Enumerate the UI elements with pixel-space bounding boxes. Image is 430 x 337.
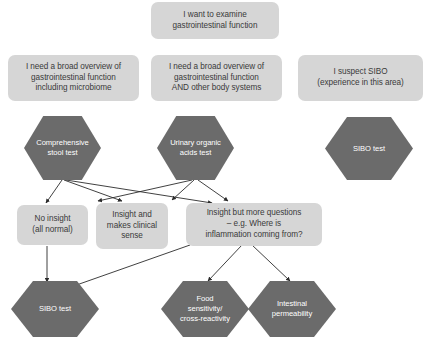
node-outcome-more-questions: Insight but more questions – e.g. Where …: [186, 203, 322, 246]
node-outcome-more-questions-label: Insight but more questions – e.g. Where …: [205, 208, 302, 240]
node-followup-sibo-test: SIBO test: [11, 281, 99, 337]
node-branch-body-systems: I need a broad overview of gastrointesti…: [151, 55, 282, 101]
edge-stool-to-more-questions: [66, 180, 212, 203]
node-test-urinary-organic-acids: Urinary organic acids test: [157, 116, 234, 180]
node-followup-food-sensitivity: Food sensitivity/ cross-reactivity: [161, 281, 249, 337]
flowchart-canvas: I want to examine gastrointestinal funct…: [0, 0, 430, 337]
edge-more-questions-to-intestinal-permeability: [252, 245, 290, 281]
node-outcome-clinical-sense: Insight and makes clinical sense: [96, 203, 168, 249]
node-branch-microbiome-label: I need a broad overview of gastrointesti…: [26, 62, 121, 94]
node-outcome-no-insight-label: No insight (all normal): [32, 214, 72, 236]
node-root-intent-label: I want to examine gastrointestinal funct…: [173, 10, 258, 32]
node-followup-intestinal-permeability: Intestinal permeability: [248, 281, 336, 337]
node-followup-intestinal-permeability-label: Intestinal permeability: [272, 299, 312, 319]
edge-more-questions-to-sibo: [68, 245, 190, 288]
edge-urinary-to-no-insight: [98, 180, 192, 201]
node-outcome-clinical-sense-label: Insight and makes clinical sense: [107, 210, 157, 242]
edge-stool-to-clinical-sense: [64, 180, 122, 201]
node-test-sibo: SIBO test: [325, 117, 413, 180]
node-branch-microbiome: I need a broad overview of gastrointesti…: [8, 55, 139, 101]
node-branch-sibo: I suspect SIBO (experience in this area): [298, 55, 423, 101]
edge-urinary-to-clinical-sense: [172, 180, 194, 200]
node-outcome-no-insight: No insight (all normal): [17, 205, 88, 245]
node-test-comprehensive-stool-label: Comprehensive stool test: [36, 138, 89, 158]
node-branch-body-systems-label: I need a broad overview of gastrointesti…: [169, 62, 264, 94]
node-followup-food-sensitivity-label: Food sensitivity/ cross-reactivity: [180, 294, 230, 324]
edge-more-questions-to-food-sensitivity: [208, 245, 242, 281]
edge-stool-to-no-insight: [46, 180, 62, 203]
node-test-urinary-organic-acids-label: Urinary organic acids test: [170, 138, 221, 158]
node-test-sibo-label: SIBO test: [353, 144, 385, 154]
node-followup-sibo-test-label: SIBO test: [39, 304, 71, 314]
node-test-comprehensive-stool: Comprehensive stool test: [24, 116, 101, 180]
node-branch-sibo-label: I suspect SIBO (experience in this area): [317, 67, 404, 89]
edge-urinary-to-more-questions: [198, 180, 228, 201]
node-root-intent: I want to examine gastrointestinal funct…: [151, 2, 279, 39]
